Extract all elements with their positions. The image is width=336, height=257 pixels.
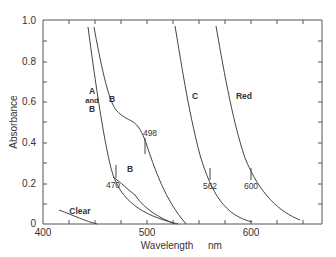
- annotation-498: 498: [143, 128, 157, 138]
- label-b-lower: B: [127, 164, 133, 174]
- x-tick-label: 600: [243, 227, 260, 238]
- label-a: A: [89, 86, 95, 96]
- curves: [59, 26, 300, 224]
- curve-c: [175, 26, 252, 222]
- y-tick-label: 0.4: [22, 137, 36, 148]
- annotation-470: 470: [106, 180, 120, 190]
- curve-a-and-b: [88, 27, 178, 224]
- annotation-600: 600: [244, 181, 258, 191]
- label-b-of-a-and-b: B: [89, 104, 95, 114]
- x-axis-unit: nm: [208, 240, 222, 251]
- label-clear: Clear: [69, 206, 91, 216]
- x-axis-label: Wavelength: [141, 240, 193, 251]
- y-tick-label: 1.0: [22, 15, 36, 26]
- x-tick-label: 500: [139, 227, 156, 238]
- label-b-upper: B: [109, 94, 115, 104]
- x-tick-label: 400: [35, 227, 52, 238]
- curve-b: [94, 27, 186, 224]
- ticks: [43, 20, 322, 224]
- axes: [43, 20, 322, 224]
- annotation-562: 562: [203, 181, 217, 191]
- y-tick-label: 0.8: [22, 56, 36, 67]
- y-tick-label: 0.6: [22, 96, 36, 107]
- marker-lines: [116, 138, 251, 180]
- y-axis-label: Absorbance: [8, 95, 19, 149]
- y-tick-label: 0.2: [22, 178, 36, 189]
- label-red: Red: [236, 91, 252, 101]
- curve-b-lower: [113, 177, 175, 224]
- absorbance-chart: 1.0 0.8 0.6 0.4 0.2 0 400 500 600 Wavele…: [0, 0, 336, 257]
- label-c: C: [192, 91, 198, 101]
